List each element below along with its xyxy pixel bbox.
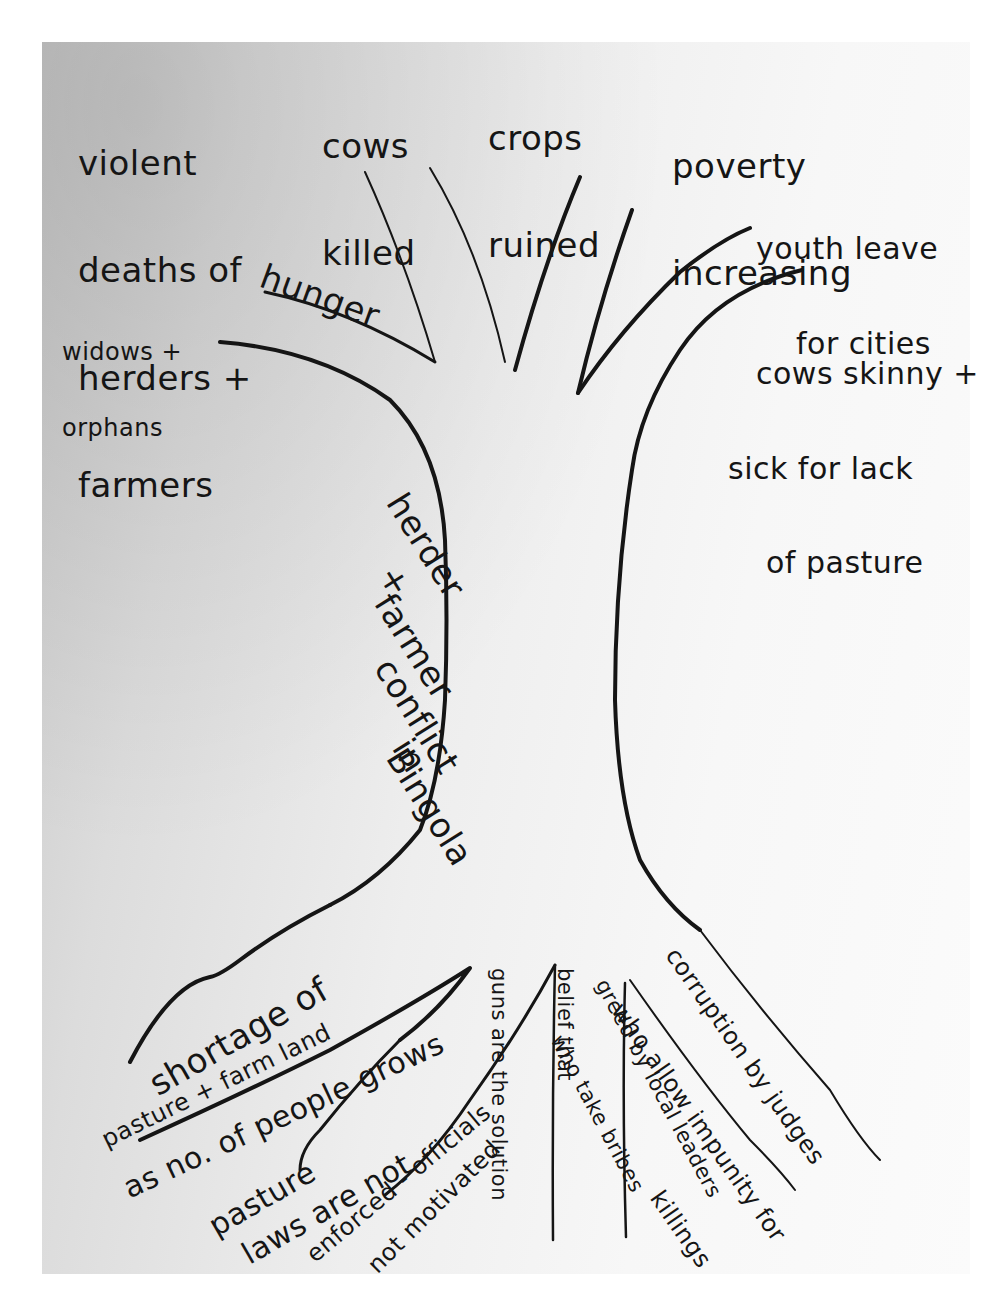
label-line: hunger [255,259,384,335]
branch-label-widows-orphans: widows + orphans [62,290,182,466]
label-line: violent [78,146,252,182]
label-line: farmers [78,468,252,504]
label-line: ruined [488,228,600,264]
label-line: of pasture [728,547,979,579]
label-line: widows + [62,340,182,365]
label-line: cows [322,129,416,165]
label-line: orphans [62,416,182,441]
branch-label-cows-skinny: cows skinny + sick for lack of pasture [728,295,979,610]
label-line: crops [488,121,600,157]
branch-label-crops-ruined: crops ruined [488,50,600,300]
label-line: guns are the solution [488,968,510,1201]
label-line: Bingola [379,743,478,873]
label-line: cows skinny + [728,358,979,390]
label-line: sick for lack [728,453,979,485]
label-line: deaths of [78,253,252,289]
label-line: who allow impunity for [598,987,790,1246]
label-line: youth leave [756,233,938,265]
